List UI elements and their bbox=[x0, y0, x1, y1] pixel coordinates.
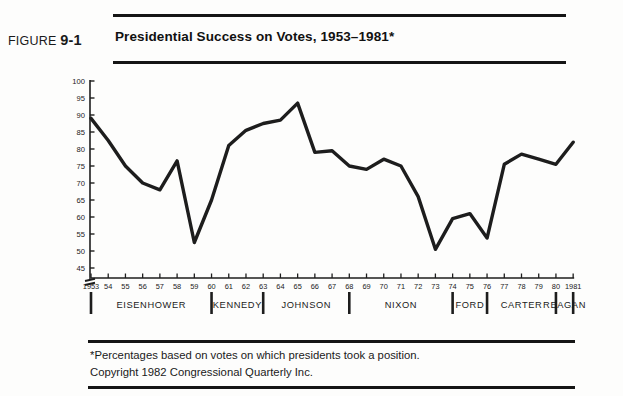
data-series-line bbox=[91, 103, 573, 249]
x-axis-tick-label: 79 bbox=[535, 282, 543, 291]
footer-rule-top bbox=[88, 340, 575, 343]
y-axis-break-mark bbox=[85, 279, 95, 281]
footnote-copyright: Copyright 1982 Congressional Quarterly I… bbox=[90, 366, 313, 378]
title-rule-bottom bbox=[113, 61, 566, 64]
x-axis-tick-label: 59 bbox=[190, 282, 198, 291]
y-axis-tick-label: 70 bbox=[77, 179, 85, 188]
figure-number: 9-1 bbox=[60, 32, 82, 48]
x-axis-tick-label: 71 bbox=[397, 282, 405, 291]
administration-label-nixon: NIXON bbox=[385, 300, 417, 310]
x-axis-tick-label: 70 bbox=[380, 282, 388, 291]
figure-label: FIGURE 9-1 bbox=[8, 32, 82, 48]
x-axis-tick-label: 78 bbox=[517, 282, 525, 291]
data-series-polyline bbox=[91, 103, 573, 249]
chart-plot-area: 4550556065707580859095100 19535455565758… bbox=[0, 70, 623, 330]
figure-header: FIGURE 9-1 Presidential Success on Votes… bbox=[0, 14, 623, 66]
figure-footer: *Percentages based on votes on which pre… bbox=[0, 340, 623, 396]
x-axis-tick-label: 63 bbox=[259, 282, 267, 291]
x-axis-tick-label: 73 bbox=[431, 282, 439, 291]
footnote-percentages: *Percentages based on votes on which pre… bbox=[90, 349, 420, 361]
y-axis-tick-label: 60 bbox=[77, 213, 85, 222]
line-chart-svg: 4550556065707580859095100 19535455565758… bbox=[0, 70, 623, 330]
page-title: Presidential Success on Votes, 1953–1981… bbox=[115, 29, 394, 44]
y-axis-tick-label: 50 bbox=[77, 247, 85, 256]
x-axis-tick-label: 61 bbox=[225, 282, 233, 291]
x-axis-tick-label: 76 bbox=[483, 282, 491, 291]
x-axis-tick-label: 55 bbox=[121, 282, 129, 291]
y-axis-tick-label: 90 bbox=[77, 111, 85, 120]
x-axis: 1953545556575859606162636465666768697071… bbox=[83, 274, 582, 292]
y-axis-tick-label: 80 bbox=[77, 145, 85, 154]
x-axis-tick-label: 66 bbox=[311, 282, 319, 291]
x-axis-tick-label: 77 bbox=[500, 282, 508, 291]
y-axis-tick-label: 75 bbox=[77, 162, 85, 171]
y-axis-tick-label: 65 bbox=[77, 196, 85, 205]
administration-label-reagan: REAGAN bbox=[543, 300, 586, 310]
administration-label-kennedy: KENNEDY bbox=[213, 300, 262, 310]
title-rule-top bbox=[113, 14, 566, 17]
y-axis-tick-label: 95 bbox=[77, 94, 85, 103]
x-axis-tick-label: 58 bbox=[173, 282, 181, 291]
footer-rule-bottom bbox=[88, 386, 575, 389]
y-axis-tick-label: 55 bbox=[77, 230, 85, 239]
administration-label-ford: FORD bbox=[455, 300, 484, 310]
x-axis-tick-label: 80 bbox=[552, 282, 560, 291]
x-axis-tick-label: 54 bbox=[104, 282, 112, 291]
x-axis-tick-label: 65 bbox=[294, 282, 302, 291]
x-axis-tick-label: 56 bbox=[139, 282, 147, 291]
x-axis-tick-label: 1981 bbox=[565, 282, 581, 291]
x-axis-tick-label: 1953 bbox=[83, 282, 99, 291]
x-axis-tick-label: 72 bbox=[414, 282, 422, 291]
administration-label-eisenhower: EISENHOWER bbox=[116, 300, 186, 310]
x-axis-tick-label: 74 bbox=[449, 282, 457, 291]
x-axis-tick-label: 69 bbox=[362, 282, 370, 291]
figure-page: FIGURE 9-1 Presidential Success on Votes… bbox=[0, 0, 623, 396]
x-axis-tick-label: 60 bbox=[207, 282, 215, 291]
x-axis-tick-label: 64 bbox=[276, 282, 284, 291]
x-axis-tick-label: 57 bbox=[156, 282, 164, 291]
y-axis: 4550556065707580859095100 bbox=[72, 77, 95, 285]
x-axis-tick-label: 68 bbox=[345, 282, 353, 291]
administration-label-johnson: JOHNSON bbox=[281, 300, 331, 310]
y-axis-tick-label: 100 bbox=[72, 77, 85, 86]
figure-label-prefix: FIGURE bbox=[8, 34, 56, 48]
y-axis-tick-label: 85 bbox=[77, 128, 85, 137]
administration-labels: EISENHOWERKENNEDYJOHNSONNIXONFORDCARTERR… bbox=[116, 300, 585, 310]
x-axis-tick-label: 62 bbox=[242, 282, 250, 291]
y-axis-tick-label: 45 bbox=[77, 264, 85, 273]
x-axis-tick-label: 67 bbox=[328, 282, 336, 291]
x-axis-tick-label: 75 bbox=[466, 282, 474, 291]
administration-label-carter: CARTER bbox=[501, 300, 543, 310]
